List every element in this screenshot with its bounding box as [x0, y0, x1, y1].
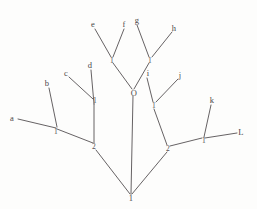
node-ef-label: 1	[110, 57, 114, 65]
edge-b-to-1ab	[49, 88, 57, 127]
leaf-i-label: i	[147, 69, 150, 78]
edge-O-to-root	[131, 96, 133, 194]
edge-i-to-1ij	[147, 78, 153, 102]
edge-1ij-to-2right	[154, 109, 167, 145]
diagram-canvas: abcdefghijkL11211O1211	[0, 0, 257, 209]
leaf-k-label: k	[210, 96, 214, 105]
edge-h-to-1gh	[152, 32, 172, 57]
leaf-e-label: e	[91, 20, 95, 29]
leaf-j-label: j	[179, 71, 182, 80]
leaf-L-label: L	[238, 128, 243, 137]
edge-a-to-1ab	[18, 119, 56, 128]
edge-c-to-1cd	[69, 77, 93, 99]
edge-L-to-1kL	[205, 133, 237, 138]
leaf-d-label: d	[88, 61, 92, 70]
leaf-c-label: c	[64, 69, 68, 78]
leaf-b-label: b	[45, 79, 49, 88]
node-ab-label: 1	[54, 128, 58, 136]
leaf-f-label: f	[122, 20, 125, 29]
leaf-a-label: a	[10, 114, 14, 123]
edge-2right-to-root	[132, 152, 167, 194]
node-cd-label: 1	[93, 97, 97, 105]
edge-1kL-to-2right	[170, 138, 202, 146]
edge-k-to-1kL	[204, 105, 211, 137]
edge-2left-to-root	[96, 150, 130, 194]
edge-1ef-to-O	[113, 63, 132, 89]
node-kL-label: 1	[202, 137, 206, 145]
edge-e-to-1ef	[95, 29, 111, 57]
node-right-label: 2	[166, 145, 170, 153]
node-O-label: O	[131, 89, 137, 98]
edge-j-to-1ij	[156, 79, 178, 102]
tree-edges-layer	[0, 0, 257, 209]
edge-g-to-1gh	[137, 25, 149, 57]
edge-1ab-to-2left	[57, 129, 93, 143]
node-gh-label: 1	[148, 57, 152, 65]
edge-f-to-1ef	[113, 29, 124, 57]
node-left-label: 2	[92, 143, 96, 151]
leaf-h-label: h	[172, 24, 176, 33]
node-root-label: 1	[129, 194, 133, 203]
leaf-g-label: g	[135, 16, 139, 25]
node-ij-label: 1	[152, 102, 156, 110]
